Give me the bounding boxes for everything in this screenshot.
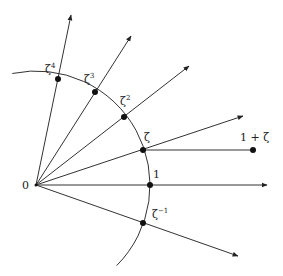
labels: ζ4ζ3ζ2ζ1ζ−11 + ζ0 — [22, 62, 269, 221]
ray-zeta3 — [36, 36, 131, 185]
point-one — [147, 182, 153, 188]
label-zeta-inv: ζ−1 — [152, 207, 168, 221]
origin-point — [35, 184, 38, 187]
label-zeta4: ζ4 — [45, 62, 56, 76]
label-zeta3: ζ3 — [84, 72, 94, 86]
point-zeta3 — [92, 89, 98, 95]
point-zeta — [140, 147, 146, 153]
label-one-plus-zeta: 1 + ζ — [240, 131, 269, 144]
label-origin: 0 — [22, 179, 29, 192]
ray-zeta-inv — [36, 185, 238, 256]
point-zeta4 — [55, 76, 61, 82]
roots-of-unity-diagram: ζ4ζ3ζ2ζ1ζ−11 + ζ0 — [0, 0, 283, 276]
label-one: 1 — [153, 168, 160, 181]
point-zeta2 — [121, 114, 127, 120]
point-zeta-inv — [140, 220, 146, 226]
point-one-plus-zeta — [250, 147, 256, 153]
points — [35, 76, 257, 226]
label-zeta2: ζ2 — [120, 94, 130, 108]
ray-zeta2 — [36, 66, 189, 185]
label-zeta: ζ — [144, 131, 150, 144]
ray-zeta4 — [36, 15, 71, 185]
